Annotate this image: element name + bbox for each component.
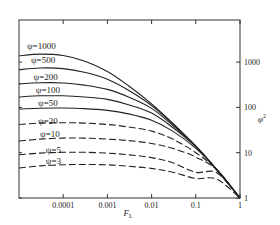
y-axis-title: φ2 xyxy=(258,113,266,124)
chart: 0.00010.0010.010.11 1000100101 ψ=1000ψ=5… xyxy=(0,0,280,225)
curve-label: ψ=500 xyxy=(31,55,56,65)
curve-label: ψ=100 xyxy=(36,85,61,95)
y-tick-label: 10 xyxy=(244,149,252,158)
curve-label: ψ=5 xyxy=(46,145,62,155)
curve-label: ψ=200 xyxy=(34,72,59,82)
x-axis-title: FL xyxy=(122,208,133,219)
curve-3 xyxy=(19,165,240,199)
curve-label: ψ=1000 xyxy=(27,41,56,51)
x-tick-label: 0.0001 xyxy=(52,201,74,210)
x-tick-label: 0.1 xyxy=(191,201,201,210)
curve-label: ψ=3 xyxy=(46,156,62,166)
x-tick-label: 1 xyxy=(238,201,242,210)
curve-label: ψ=10 xyxy=(40,129,60,139)
y-tick-label: 1 xyxy=(244,194,248,203)
curve-labels: ψ=1000ψ=500ψ=200ψ=100ψ=50ψ=20ψ=10ψ=5ψ=3 xyxy=(27,41,62,166)
x-tick-label: 0.001 xyxy=(98,201,116,210)
curve-label: ψ=50 xyxy=(38,98,58,108)
y-tick-label: 100 xyxy=(244,103,256,112)
curve-label: ψ=20 xyxy=(38,116,58,126)
x-axis-ticks: 0.00010.0010.010.11 xyxy=(52,20,242,210)
x-tick-label: 0.01 xyxy=(145,201,159,210)
y-tick-label: 1000 xyxy=(244,58,260,67)
